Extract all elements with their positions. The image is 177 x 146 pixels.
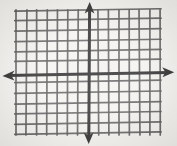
coordinate-grid-canvas [0,0,177,146]
coordinate-grid-figure [0,0,177,146]
grid-line-vertical [67,10,68,135]
grid-line-vertical [26,10,27,135]
grid-line-vertical [78,10,79,135]
grid-line-vertical [47,10,48,135]
